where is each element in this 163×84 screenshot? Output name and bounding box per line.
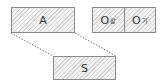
cell-o-1-main: O	[100, 14, 109, 27]
box-s-label: S	[81, 62, 88, 75]
cell-o-2-main: O	[132, 14, 141, 27]
box-a: A	[11, 7, 75, 33]
left-dotted-connector	[11, 33, 53, 56]
cell-o-2: O기	[124, 8, 156, 32]
cell-o-2-subscript: 기	[142, 16, 148, 25]
split-box-o: O활 O기	[92, 7, 156, 33]
box-a-label: A	[39, 14, 47, 27]
box-s: S	[53, 56, 116, 80]
cell-o-1-subscript: 활	[110, 16, 116, 25]
right-dotted-connector	[75, 33, 116, 56]
cell-o-1: O활	[93, 8, 124, 32]
